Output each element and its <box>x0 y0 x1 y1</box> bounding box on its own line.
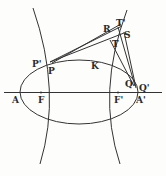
focus-f-prime-dot <box>117 92 119 94</box>
label-s: S <box>124 31 131 40</box>
line-p-t-prime <box>52 24 121 63</box>
hyperbola-left-branch <box>33 8 49 164</box>
focus-f-dot <box>40 92 42 94</box>
label-a-prime: A' <box>136 96 146 105</box>
label-p: P <box>48 67 55 76</box>
label-q-prime: Q' <box>139 84 150 93</box>
label-q: Q <box>125 80 133 89</box>
label-t: T <box>112 40 119 49</box>
diagram-canvas: A F F' A' P' P K Q Q' R S T T' <box>0 0 166 176</box>
label-a: A <box>12 96 19 105</box>
label-p-prime: P' <box>32 60 42 69</box>
label-f: F <box>38 96 44 105</box>
label-k: K <box>91 62 99 71</box>
label-r: R <box>103 25 110 34</box>
label-f-prime: F' <box>114 96 123 105</box>
label-t-prime: T' <box>116 19 125 28</box>
